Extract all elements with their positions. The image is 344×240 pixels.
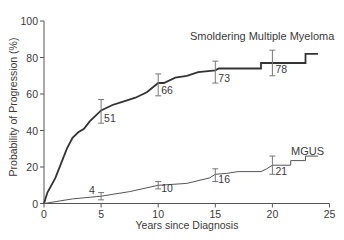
y-tick-label: 100 — [20, 15, 38, 27]
x-tick-label: 25 — [324, 208, 336, 220]
mgus-curve — [44, 156, 318, 203]
x-tick-label: 20 — [267, 208, 279, 220]
y-tick-label: 80 — [26, 52, 38, 64]
smm-curve — [44, 54, 318, 204]
y-tick-label: 40 — [26, 125, 38, 137]
x-tick-label: 15 — [209, 208, 221, 220]
smm-series-label: Smoldering Multiple Myeloma — [190, 30, 335, 42]
mgus-series-label: MGUS — [291, 145, 324, 157]
x-tick-label: 5 — [98, 208, 104, 220]
point-value-label: 16 — [218, 173, 230, 185]
point-value-label: 21 — [275, 165, 287, 177]
point-value-label: 51 — [104, 112, 116, 124]
series-layer: 516673784101621 — [44, 50, 318, 203]
y-tick-label: 60 — [26, 88, 38, 100]
point-value-label: 10 — [161, 182, 173, 194]
point-value-label: 78 — [275, 63, 287, 75]
point-value-label: 73 — [218, 72, 230, 84]
x-tick-label: 10 — [152, 208, 164, 220]
axes: 0204060801000510152025 — [20, 15, 335, 220]
y-axis-title: Probability of Progression (%) — [7, 38, 19, 177]
point-value-label: 4 — [89, 184, 95, 196]
progression-chart: 0204060801000510152025 516673784101621 S… — [0, 0, 344, 240]
y-tick-label: 20 — [26, 161, 38, 173]
y-tick-label: 0 — [32, 198, 38, 210]
x-tick-label: 0 — [41, 208, 47, 220]
point-value-label: 66 — [161, 84, 173, 96]
x-axis-title: Years since Diagnosis — [136, 219, 239, 231]
